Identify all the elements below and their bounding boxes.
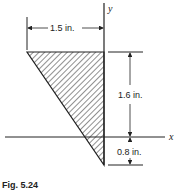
x-axis-label: x — [168, 131, 174, 142]
figure-caption: Fig. 5.24 — [2, 180, 38, 190]
triangle-area-diagram: y x 1.5 in. 1.6 in. 0.8 in. Fig. 5.24 — [0, 0, 183, 190]
width-dimension-label: 1.5 in. — [50, 23, 75, 33]
y-axis-label: y — [107, 3, 113, 14]
depth-dimension-label: 0.8 in. — [117, 147, 142, 157]
height-dimension-label: 1.6 in. — [118, 90, 143, 100]
hatched-triangle — [27, 52, 104, 165]
